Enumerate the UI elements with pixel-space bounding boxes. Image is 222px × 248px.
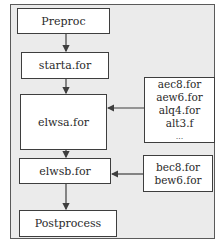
node-preproc: Preproc <box>17 8 110 34</box>
node-label: starta.for <box>39 60 91 71</box>
file-item: aec8.for <box>158 78 202 91</box>
node-label: elwsa.for <box>38 117 89 128</box>
file-item: bew6.for <box>154 174 201 187</box>
node-postprocess: Postprocess <box>19 210 117 237</box>
node-elwsa-dependencies: aec8.for aew6.for alq4.for alt3.f ... <box>144 77 215 143</box>
node-elwsb-dependencies: bec8.for bew6.for <box>143 155 213 192</box>
node-elwsb: elwsb.for <box>19 158 111 184</box>
file-item: bec8.for <box>156 161 200 174</box>
file-item: alt3.f <box>166 117 194 130</box>
node-elwsa: elwsa.for <box>20 94 107 150</box>
node-label: Postprocess <box>35 218 102 229</box>
node-starta: starta.for <box>21 52 109 79</box>
file-item: alq4.for <box>159 104 201 117</box>
file-item-ellipsis: ... <box>176 130 184 143</box>
file-item: aew6.for <box>156 91 203 104</box>
node-label: Preproc <box>41 16 85 27</box>
node-label: elwsb.for <box>39 166 91 177</box>
